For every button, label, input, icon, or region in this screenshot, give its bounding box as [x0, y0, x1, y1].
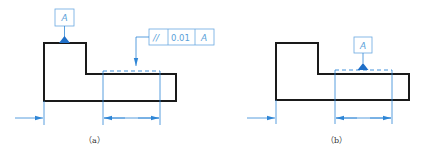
part-outline-b — [276, 43, 409, 100]
panel-a: A // 0.01 A （a） — [15, 9, 214, 145]
datum-feature-b: A — [354, 37, 372, 70]
tolerance-leader-arrow — [136, 37, 149, 66]
datum-triangle-icon — [59, 36, 70, 43]
tolerance-frame: // 0.01 A — [136, 29, 214, 66]
caption-b: （b） — [326, 136, 347, 145]
tolerance-datum: A — [200, 33, 207, 43]
datum-triangle-icon — [358, 63, 369, 70]
datum-feature-a: A — [55, 9, 74, 43]
parallelism-symbol: // — [152, 33, 160, 43]
drawing-canvas: A // 0.01 A （a） — [0, 0, 422, 152]
panel-b: A （b） — [247, 37, 409, 145]
tolerance-value: 0.01 — [171, 33, 190, 43]
datum-label: A — [359, 41, 366, 51]
datum-label: A — [61, 13, 68, 23]
caption-a: （a） — [84, 136, 105, 145]
part-outline-a — [44, 43, 176, 101]
